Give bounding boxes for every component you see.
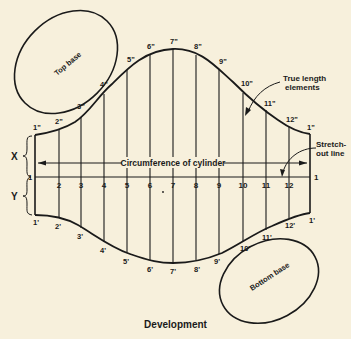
true-length-label-1: True length <box>283 74 326 83</box>
svg-text:5": 5" <box>127 55 135 64</box>
svg-text:5': 5' <box>123 257 129 266</box>
svg-text:4': 4' <box>100 246 106 255</box>
svg-text:6": 6" <box>147 42 155 51</box>
stretch-right-number: 1 <box>314 173 319 182</box>
x-label: X <box>11 151 18 162</box>
svg-text:9: 9 <box>217 181 222 190</box>
svg-text:9": 9" <box>219 57 227 66</box>
svg-text:2': 2' <box>55 222 61 231</box>
development-diagram: Top base Bottom base Circumference of cy… <box>0 0 351 339</box>
svg-text:4: 4 <box>102 181 107 190</box>
stretch-left-number: 1 <box>28 173 32 182</box>
y-brace <box>23 177 32 215</box>
stretch-out-arrow-icon <box>280 169 285 177</box>
svg-text:3": 3" <box>77 102 85 111</box>
element-numbers: 2 3 4 5 6 7 8 9 10 11 12 <box>57 181 294 190</box>
svg-text:12: 12 <box>285 181 294 190</box>
svg-text:1': 1' <box>33 218 39 227</box>
arrowhead-right-icon <box>299 161 307 166</box>
svg-text:8": 8" <box>194 42 202 51</box>
svg-text:8: 8 <box>194 181 199 190</box>
svg-text:7": 7" <box>170 37 178 46</box>
circumference-label: Circumference of cylinder <box>121 158 227 168</box>
diagram-title: Development <box>0 319 351 330</box>
svg-text:9': 9' <box>214 257 220 266</box>
svg-text:1": 1" <box>307 123 315 132</box>
svg-text:3': 3' <box>77 232 83 241</box>
svg-text:10': 10' <box>240 244 250 253</box>
bottom-base-label: Bottom base <box>248 260 291 292</box>
x-brace <box>23 136 32 177</box>
svg-text:7: 7 <box>171 181 176 190</box>
stretch-out-label-2: out line <box>316 149 345 158</box>
svg-text:11': 11' <box>262 233 272 242</box>
svg-text:11": 11" <box>264 99 276 108</box>
true-length-label-2: elements <box>285 83 320 92</box>
svg-text:10": 10" <box>241 79 253 88</box>
element-lines <box>59 49 289 263</box>
top-base-label: Top base <box>53 50 84 78</box>
svg-text:11: 11 <box>262 181 271 190</box>
svg-text:10: 10 <box>239 181 248 190</box>
stretch-out-leader <box>283 148 316 172</box>
arrowhead-left-icon <box>38 161 46 166</box>
y-label: Y <box>11 191 18 202</box>
svg-text:6: 6 <box>148 181 153 190</box>
svg-text:8': 8' <box>194 265 200 274</box>
svg-text:12": 12" <box>286 115 298 124</box>
svg-text:6': 6' <box>147 265 153 274</box>
svg-text:5: 5 <box>125 181 130 190</box>
svg-text:1": 1" <box>33 123 41 132</box>
svg-text:2: 2 <box>57 181 62 190</box>
stretch-out-label-1: Stretch- <box>316 140 347 149</box>
svg-text:2": 2" <box>55 117 63 126</box>
svg-text:7': 7' <box>170 267 176 276</box>
svg-text:12': 12' <box>285 221 295 230</box>
svg-text:1': 1' <box>309 216 315 225</box>
true-length-arrow-icon <box>245 107 251 116</box>
svg-text:3: 3 <box>79 181 84 190</box>
svg-text:4": 4" <box>100 80 108 89</box>
